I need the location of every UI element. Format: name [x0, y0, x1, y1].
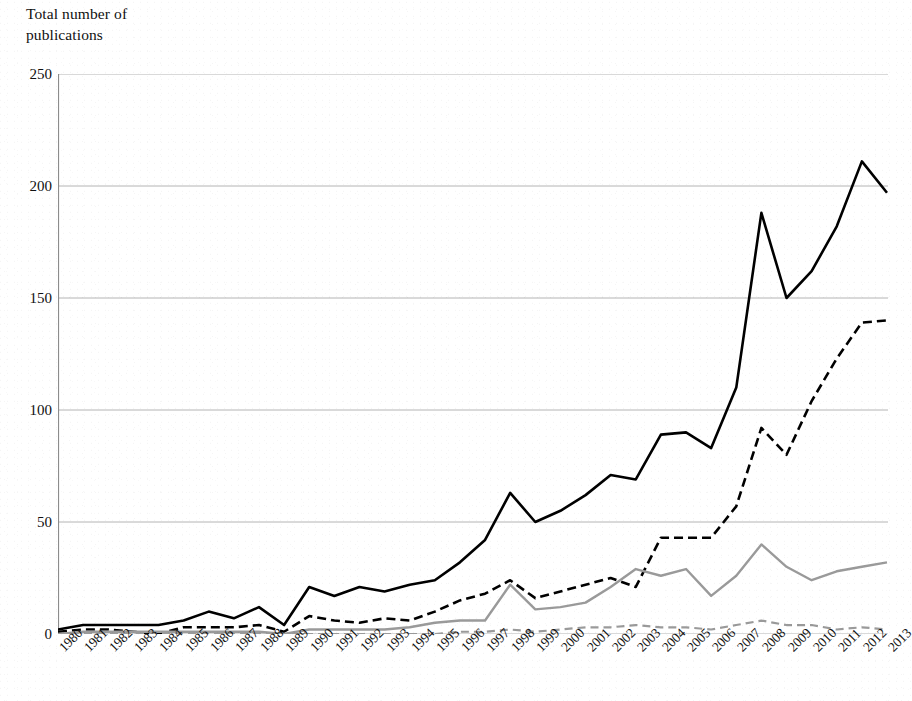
y-axis-tick-labels: 050100150200250 [0, 74, 52, 634]
y-tick-label: 200 [6, 178, 52, 195]
plot-svg [58, 74, 888, 634]
y-axis-title: Total number of publications [26, 4, 216, 46]
x-axis-tick-labels: 1980198119821983198419851986198719881989… [58, 642, 888, 700]
y-tick-label: 100 [6, 402, 52, 419]
y-tick-label: 150 [6, 290, 52, 307]
publications-line-chart: Total number of publications 05010015020… [0, 0, 912, 701]
y-tick-label: 250 [6, 66, 52, 83]
x-tick-label: 2013 [885, 625, 912, 655]
series-line-solid-black [58, 161, 887, 629]
y-tick-label: 0 [6, 626, 52, 643]
series-line-dashed-black [58, 320, 887, 634]
y-tick-label: 50 [6, 514, 52, 531]
plot-area [58, 74, 888, 634]
